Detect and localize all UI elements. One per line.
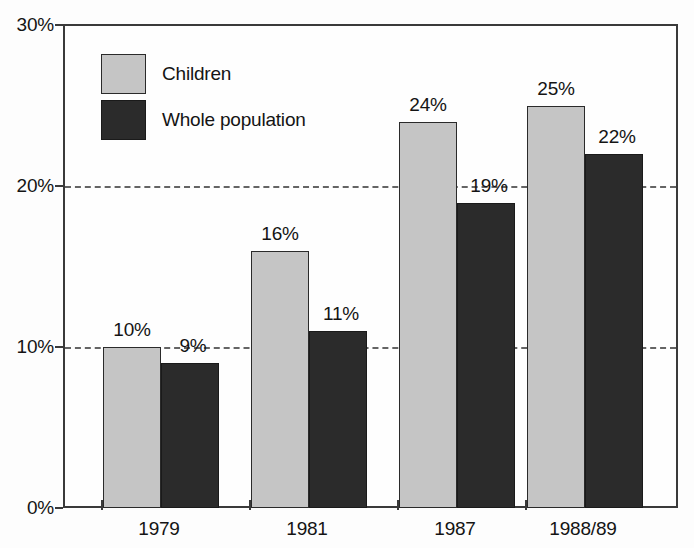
- x-tick-label-1988-89: 1988/89: [549, 518, 616, 540]
- plot-area: Children Whole population 10% 9% 16% 11%…: [63, 24, 678, 508]
- bar-whole-population-1988-89[interactable]: [585, 154, 643, 508]
- bar-value-whole-population-1979: 9%: [179, 335, 206, 357]
- bar-whole-population-1987[interactable]: [457, 203, 515, 508]
- y-axis: 30% 20% 10% 0%: [0, 0, 63, 548]
- bar-value-children-1979: 10%: [113, 319, 150, 341]
- bar-value-children-1981: 16%: [261, 223, 298, 245]
- y-tick-label-30: 30%: [17, 14, 54, 36]
- y-tick-label-10: 10%: [17, 336, 54, 358]
- y-tick-label-20: 20%: [17, 175, 54, 197]
- bar-children-1988-89[interactable]: [527, 106, 585, 508]
- bar-value-children-1988-89: 25%: [537, 78, 574, 100]
- bar-value-whole-population-1987: 19%: [470, 175, 507, 197]
- bar-whole-population-1979[interactable]: [161, 363, 219, 508]
- x-tick-mark-2: [397, 500, 399, 510]
- bar-children-1979[interactable]: [103, 347, 161, 508]
- y-tick-mark-0: [55, 507, 63, 509]
- y-tick-mark-30: [55, 24, 63, 26]
- bar-whole-population-1981[interactable]: [309, 331, 367, 508]
- bar-children-1987[interactable]: [399, 122, 457, 508]
- bar-children-1981[interactable]: [251, 251, 309, 508]
- x-tick-label-1981: 1981: [286, 518, 327, 540]
- y-tick-mark-20: [55, 185, 63, 187]
- bar-value-children-1987: 24%: [409, 94, 446, 116]
- x-tick-mark-1: [249, 500, 251, 510]
- bars-layer: 10% 9% 16% 11% 24% 19% 25% 22%: [65, 26, 676, 506]
- x-tick-mark-3: [525, 500, 527, 510]
- bar-value-whole-population-1981: 11%: [323, 303, 359, 325]
- x-axis: 1979 1981 1987 1988/89: [0, 512, 694, 548]
- x-tick-label-1979: 1979: [138, 518, 179, 540]
- bar-value-whole-population-1988-89: 22%: [598, 126, 635, 148]
- x-tick-mark-0: [101, 500, 103, 510]
- x-tick-label-1987: 1987: [434, 518, 475, 540]
- y-tick-mark-10: [55, 346, 63, 348]
- bar-chart: 30% 20% 10% 0% Children Whole population: [0, 0, 694, 548]
